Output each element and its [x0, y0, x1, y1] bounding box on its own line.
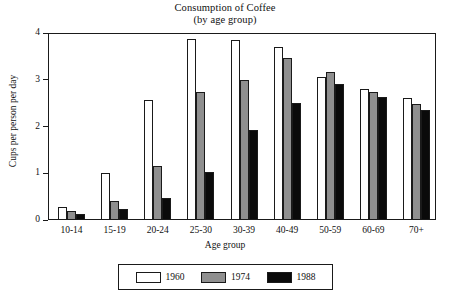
bar-group: [317, 33, 344, 220]
y-axis: Cups per person per day 01234: [0, 33, 48, 220]
y-axis-title: Cups per person per day: [8, 46, 18, 196]
bar-60-69-1960: [360, 89, 369, 220]
bar-40-49-1960: [274, 47, 283, 220]
x-axis-label: 30-39: [233, 225, 255, 235]
chart-subtitle: (by age group): [0, 14, 450, 26]
legend-label-1974: 1974: [231, 272, 250, 282]
x-axis-label: 70+: [409, 225, 424, 235]
bar-70+-1988: [421, 110, 430, 220]
x-axis-label: 25-30: [190, 225, 212, 235]
bar-25-30-1960: [187, 39, 196, 220]
y-tick-label: 1: [35, 166, 40, 179]
chart-title: Consumption of Coffee: [0, 2, 450, 14]
x-axis-label: 15-19: [104, 225, 126, 235]
bars-layer: [48, 33, 436, 220]
bar-30-39-1960: [231, 40, 240, 220]
bar-15-19-1960: [101, 173, 110, 220]
y-tick-label: 3: [35, 73, 40, 86]
x-axis-label: 20-24: [147, 225, 169, 235]
bar-group: [101, 33, 128, 220]
bar-40-49-1974: [283, 58, 292, 220]
bar-70+-1960: [403, 98, 412, 220]
bar-50-59-1974: [326, 72, 335, 220]
coffee-consumption-chart: Consumption of Coffee (by age group) Cup…: [0, 0, 450, 300]
bar-group: [274, 33, 301, 220]
bar-20-24-1960: [144, 100, 153, 220]
bar-50-59-1960: [317, 77, 326, 220]
legend-item-1988[interactable]: 1988: [267, 272, 316, 283]
bar-group: [58, 33, 85, 220]
bar-30-39-1988: [249, 130, 258, 220]
bar-20-24-1974: [153, 166, 162, 220]
y-tick-label: 4: [35, 26, 40, 39]
bar-10-14-1960: [58, 207, 67, 220]
bar-60-69-1974: [369, 92, 378, 220]
chart-title-block: Consumption of Coffee (by age group): [0, 2, 450, 26]
bar-group: [231, 33, 258, 220]
bar-60-69-1988: [378, 97, 387, 220]
x-axis-label: 60-69: [362, 225, 384, 235]
bar-group: [403, 33, 430, 220]
legend-swatch-1988: [267, 272, 292, 283]
x-axis-label: 10-14: [60, 225, 82, 235]
bar-15-19-1974: [110, 201, 119, 220]
bar-group: [187, 33, 214, 220]
bar-group: [360, 33, 387, 220]
x-axis-title: Age group: [0, 240, 450, 250]
legend-swatch-1974: [201, 272, 226, 283]
bar-10-14-1974: [67, 211, 76, 220]
bar-70+-1974: [412, 104, 421, 220]
legend-item-1960[interactable]: 1960: [136, 272, 185, 283]
bar-25-30-1974: [196, 92, 205, 220]
bar-50-59-1988: [335, 84, 344, 220]
chart-legend: 196019741988: [118, 264, 333, 290]
x-axis-label: 40-49: [276, 225, 298, 235]
bar-25-30-1988: [205, 172, 214, 220]
legend-swatch-1960: [136, 272, 161, 283]
bar-20-24-1988: [162, 198, 171, 220]
y-tick-label: 0: [35, 213, 40, 226]
legend-label-1960: 1960: [166, 272, 185, 282]
legend-label-1988: 1988: [297, 272, 316, 282]
x-axis-label: 50-59: [319, 225, 341, 235]
legend-item-1974[interactable]: 1974: [201, 272, 250, 283]
bar-40-49-1988: [292, 103, 301, 220]
y-tick-label: 2: [35, 120, 40, 133]
bar-group: [144, 33, 171, 220]
bar-30-39-1974: [240, 80, 249, 220]
bar-15-19-1988: [119, 209, 128, 220]
